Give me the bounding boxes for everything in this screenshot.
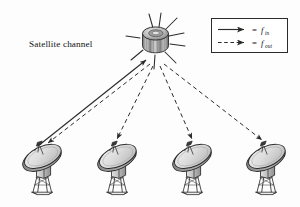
legend-equals-uplink: =	[252, 25, 257, 35]
link-group	[38, 60, 262, 146]
satellite-channel-label: Satellite channel	[29, 39, 93, 49]
legend-equals-downlink: =	[252, 38, 257, 48]
link-downlink-1	[48, 64, 150, 143]
ground-station-2	[94, 139, 140, 194]
diagram-canvas: Satellite channel = f in = f out	[0, 0, 300, 207]
ground-station-3	[169, 139, 215, 194]
ground-station-1	[19, 139, 65, 194]
link-uplink-1	[38, 60, 146, 146]
link-downlink-4	[164, 64, 262, 140]
legend-box	[212, 19, 288, 53]
ground-station-4	[243, 139, 289, 194]
satellite-hub-core	[152, 31, 159, 34]
legend-subscript-downlink: out	[265, 43, 272, 49]
satellite-channel-figure: Satellite channel = f in = f out	[0, 0, 300, 207]
link-downlink-3	[160, 66, 192, 139]
legend-subscript-uplink: in	[265, 30, 269, 36]
satellite	[126, 13, 185, 69]
link-downlink-2	[117, 66, 153, 139]
legend: = f in = f out	[212, 19, 288, 53]
